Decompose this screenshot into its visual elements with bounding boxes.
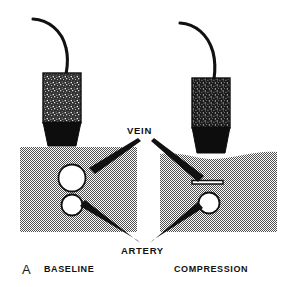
baseline-caption: BASELINE [44, 265, 94, 274]
figure-panel-a: VEIN ARTERY A BASELINE COMPRESSION [0, 0, 288, 287]
transducer-body-baseline [43, 73, 81, 123]
diagram-canvas [0, 0, 288, 287]
vein-label: VEIN [127, 126, 152, 136]
transducer-tip-baseline [43, 122, 81, 146]
artery-baseline [62, 195, 83, 216]
artery-compression [199, 193, 220, 214]
transducer-cable-baseline [33, 19, 68, 74]
panel-letter: A [22, 263, 31, 276]
artery-label: ARTERY [121, 246, 164, 256]
compression-caption: COMPRESSION [174, 265, 248, 274]
vein-compression-collapsed [192, 181, 223, 185]
transducer-cable-compression [180, 23, 215, 79]
transducer-body-compression [192, 78, 230, 128]
transducer-tip-compression [192, 127, 230, 153]
vein-baseline [59, 165, 86, 192]
